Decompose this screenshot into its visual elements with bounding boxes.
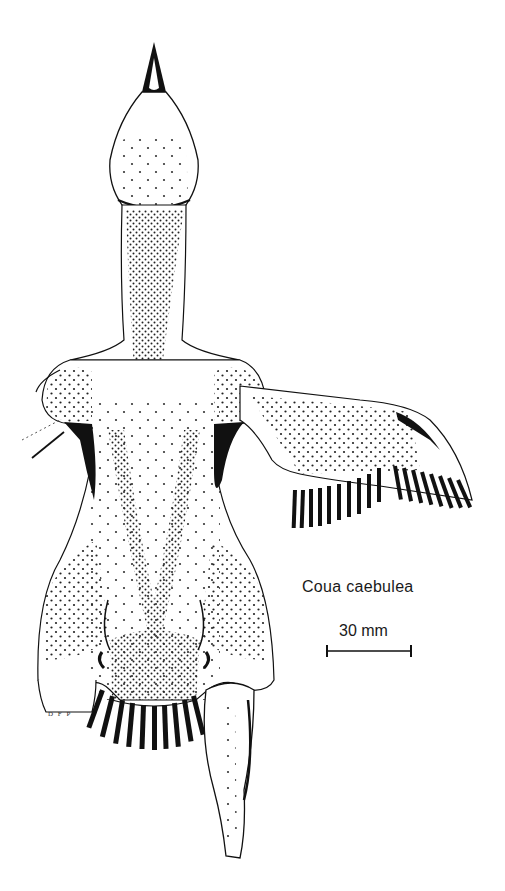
species-label: Coua caebulea — [302, 578, 414, 596]
right-wing-extended — [240, 386, 472, 528]
body — [38, 360, 274, 700]
right-leg-extended — [204, 683, 254, 858]
bird-illustration — [0, 0, 505, 891]
scale-bar — [325, 643, 413, 659]
scale-label: 30 mm — [339, 622, 388, 640]
left-leg-stub — [38, 680, 96, 712]
head — [110, 92, 199, 213]
artist-initials: D F P — [48, 710, 72, 718]
pterylosis-figure: Coua caebulea 30 mm D F P — [0, 0, 505, 891]
